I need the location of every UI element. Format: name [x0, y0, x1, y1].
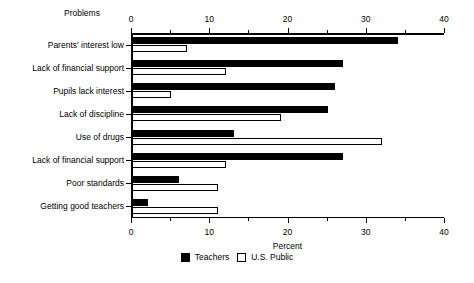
- bar-row: Lack of discipline: [131, 102, 444, 125]
- axis-tick-bot-10: [209, 218, 210, 223]
- axis-tick-label-bot-20: 20: [283, 227, 292, 237]
- category-tick: [126, 137, 131, 138]
- bar-row: Lack of financial support: [131, 56, 444, 79]
- category-tick: [126, 183, 131, 184]
- bar-row: Pupils lack interest: [131, 79, 444, 102]
- bar-row: Getting good teachers: [131, 195, 444, 218]
- bar-teachers: [132, 106, 328, 113]
- bar-us-public: [132, 207, 218, 214]
- axis-tick-label-bot-40: 40: [439, 227, 448, 237]
- category-label: Getting good teachers: [40, 201, 124, 211]
- legend-label-teachers: Teachers: [195, 252, 230, 262]
- legend-swatch-filled-square: [181, 253, 190, 262]
- axis-tick-label-top-0: 0: [129, 14, 134, 24]
- axis-tick-bot-0: [131, 218, 132, 223]
- bar-teachers: [132, 199, 148, 206]
- category-label: Lack of discipline: [59, 109, 124, 119]
- category-label: Pupils lack interest: [53, 86, 124, 96]
- bar-row: Parents' interest low: [131, 33, 444, 56]
- category-label: Lack of financial support: [32, 155, 124, 165]
- axis-tick-label-top-20: 20: [283, 14, 292, 24]
- axis-tick-label-bot-0: 0: [129, 227, 134, 237]
- axis-tick-label-top-10: 10: [205, 14, 214, 24]
- axis-tick-bot-40: [444, 218, 445, 223]
- category-label: Lack of financial support: [32, 63, 124, 73]
- bar-chart: Problems 001010202030304040 Parents' int…: [0, 0, 474, 283]
- bar-teachers: [132, 130, 234, 137]
- axis-tick-bot-15: [248, 218, 249, 221]
- category-tick: [126, 68, 131, 69]
- axis-tick-bot-5: [170, 218, 171, 221]
- legend-label-us-public: U.S. Public: [251, 252, 293, 262]
- axis-tick-label-top-30: 30: [361, 14, 370, 24]
- legend-item-us-public: U.S. Public: [237, 252, 293, 262]
- legend-swatch-open-square: [237, 253, 246, 262]
- category-tick: [126, 45, 131, 46]
- axis-tick-bot-30: [366, 218, 367, 223]
- chart-legend: Teachers U.S. Public: [0, 252, 474, 262]
- bar-us-public: [132, 45, 187, 52]
- axis-tick-label-top-40: 40: [439, 14, 448, 24]
- bar-us-public: [132, 68, 226, 75]
- legend-item-teachers: Teachers: [181, 252, 230, 262]
- category-tick: [126, 114, 131, 115]
- bar-teachers: [132, 37, 398, 44]
- bar-row: Use of drugs: [131, 126, 444, 149]
- bar-us-public: [132, 114, 281, 121]
- axis-tick-bot-20: [288, 218, 289, 223]
- bar-us-public: [132, 184, 218, 191]
- category-axis-title: Problems: [64, 8, 100, 18]
- axis-tick-bot-35: [405, 218, 406, 221]
- axis-tick-label-bot-30: 30: [361, 227, 370, 237]
- axis-tick-bot-25: [327, 218, 328, 221]
- bar-teachers: [132, 176, 179, 183]
- bar-teachers: [132, 60, 343, 67]
- axis-tick-top-40: [444, 28, 445, 33]
- x-axis-title: Percent: [273, 241, 302, 251]
- bar-teachers: [132, 153, 343, 160]
- bar-us-public: [132, 161, 226, 168]
- bar-teachers: [132, 83, 335, 90]
- category-label: Parents' interest low: [48, 40, 124, 50]
- category-label: Poor standards: [66, 178, 124, 188]
- bar-us-public: [132, 91, 171, 98]
- bar-row: Lack of financial support: [131, 149, 444, 172]
- plot-area: 001010202030304040 Parents' interest low…: [131, 33, 444, 218]
- category-tick: [126, 206, 131, 207]
- bar-row: Poor standards: [131, 172, 444, 195]
- category-tick: [126, 91, 131, 92]
- category-label: Use of drugs: [76, 132, 124, 142]
- axis-tick-label-bot-10: 10: [205, 227, 214, 237]
- bar-us-public: [132, 138, 382, 145]
- category-tick: [126, 160, 131, 161]
